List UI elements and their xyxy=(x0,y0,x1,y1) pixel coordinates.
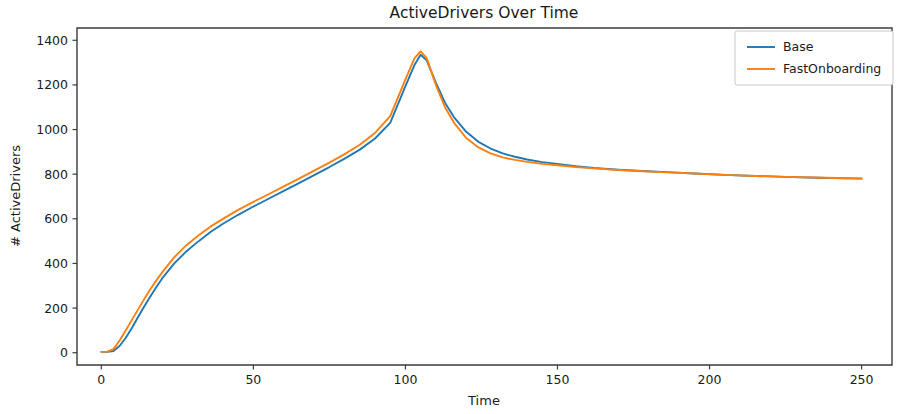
y-tick-label: 600 xyxy=(44,211,68,226)
y-tick-label: 0 xyxy=(60,345,68,360)
legend-label-base: Base xyxy=(783,39,814,54)
x-tick-label: 150 xyxy=(546,372,570,387)
x-tick-label: 200 xyxy=(698,372,722,387)
legend-background xyxy=(735,31,893,85)
x-tick-label: 100 xyxy=(394,372,418,387)
y-axis-label: # ActiveDrivers xyxy=(8,145,23,247)
y-tick-label: 200 xyxy=(44,301,68,316)
y-tick-label: 1000 xyxy=(36,122,68,137)
y-tick-label: 400 xyxy=(44,256,68,271)
y-tick-label: 1400 xyxy=(36,33,68,48)
x-tick-label: 250 xyxy=(850,372,874,387)
chart-legend[interactable]: BaseFastOnboarding xyxy=(735,31,893,85)
y-tick-label: 1200 xyxy=(36,77,68,92)
x-axis-label: Time xyxy=(467,393,500,408)
legend-label-fastonboarding: FastOnboarding xyxy=(783,61,881,76)
activedrivers-line-chart: 050100150200250 020040060080010001200140… xyxy=(0,0,902,414)
x-axis-tick-labels: 050100150200250 xyxy=(97,372,873,387)
x-tick-label: 50 xyxy=(245,372,261,387)
y-tick-label: 800 xyxy=(44,167,68,182)
chart-figure: 050100150200250 020040060080010001200140… xyxy=(0,0,902,414)
chart-title: ActiveDrivers Over Time xyxy=(390,4,579,22)
x-tick-label: 0 xyxy=(97,372,105,387)
y-axis-tick-labels: 0200400600800100012001400 xyxy=(36,33,68,360)
